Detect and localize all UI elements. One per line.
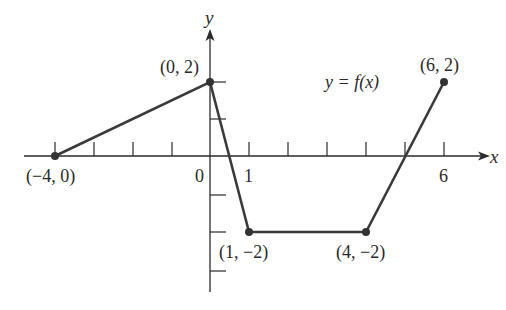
x-axis-ticks <box>55 142 444 156</box>
point-6-2 <box>440 78 448 86</box>
point-label-neg4-0: (−4, 0) <box>26 166 75 187</box>
point-label-1-neg2: (1, −2) <box>219 242 268 263</box>
vertex-points <box>51 78 448 236</box>
point-1-neg2 <box>245 228 253 236</box>
point-4-neg2 <box>362 228 370 236</box>
function-graph: y x 0 1 6 y = f(x) (−4, 0) (0, 2) (1, −2… <box>0 0 506 310</box>
x-axis <box>24 142 490 161</box>
point-label-6-2: (6, 2) <box>420 55 459 76</box>
x-tick-label-1: 1 <box>244 166 253 186</box>
point-0-2 <box>206 78 214 86</box>
function-label: y = f(x) <box>323 72 379 93</box>
x-tick-label-6: 6 <box>439 166 448 186</box>
point-label-0-2: (0, 2) <box>160 57 199 78</box>
point-neg4-0 <box>51 152 59 160</box>
point-label-4-neg2: (4, −2) <box>336 242 385 263</box>
function-curve <box>55 82 444 232</box>
y-axis-label: y <box>203 7 214 28</box>
origin-label: 0 <box>195 166 204 186</box>
x-axis-label: x <box>489 146 499 167</box>
